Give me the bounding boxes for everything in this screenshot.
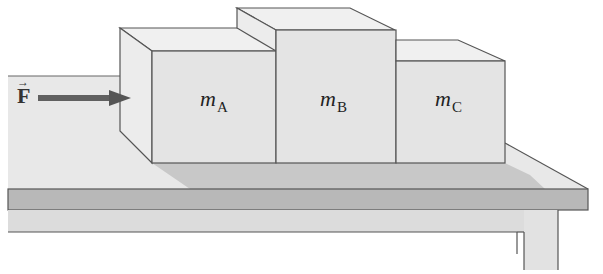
mass-symbol: m: [320, 86, 336, 111]
block-c-label: mC: [435, 86, 462, 112]
force-label: → F: [17, 83, 30, 109]
mass-subscript: C: [452, 99, 462, 115]
block-a-label: mA: [200, 86, 228, 112]
table-front-edge: [8, 189, 588, 210]
mass-symbol: m: [435, 86, 451, 111]
block-b-label: mB: [320, 86, 347, 112]
block-c-front: [396, 61, 505, 163]
mass-symbol: m: [200, 86, 216, 111]
mass-subscript: A: [217, 99, 228, 115]
arrow-shaft: [38, 95, 113, 101]
table-apron: [8, 210, 558, 232]
table-leg: [524, 210, 558, 270]
physics-diagram: [0, 0, 603, 274]
mass-subscript: B: [337, 99, 347, 115]
block-c-top: [396, 40, 505, 61]
block-shadow: [152, 163, 545, 189]
block-a: [120, 28, 276, 163]
vector-arrow-icon: →: [17, 75, 29, 90]
